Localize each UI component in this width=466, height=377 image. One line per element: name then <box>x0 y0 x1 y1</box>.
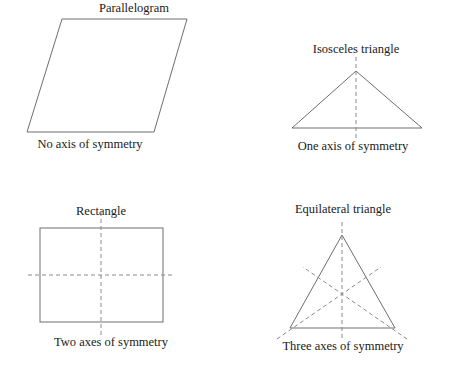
symmetry-figure: Parallelogram No axis of symmetry Isosce… <box>0 0 466 377</box>
rectangle-caption: Two axes of symmetry <box>54 336 168 350</box>
panel-rectangle: Rectangle Two axes of symmetry <box>0 195 233 377</box>
panel-equilateral: Equilateral triangle Three axes of symme… <box>233 195 466 377</box>
panel-isosceles: Isosceles triangle One axis of symmetry <box>233 34 466 169</box>
panel-parallelogram: Parallelogram No axis of symmetry <box>0 0 233 160</box>
equilateral-caption: Three axes of symmetry <box>282 340 403 354</box>
parallelogram-caption: No axis of symmetry <box>37 138 142 152</box>
parallelogram-outline <box>27 19 187 132</box>
parallelogram-shape <box>0 0 233 160</box>
isosceles-outline <box>292 71 422 128</box>
isosceles-caption: One axis of symmetry <box>298 140 409 154</box>
